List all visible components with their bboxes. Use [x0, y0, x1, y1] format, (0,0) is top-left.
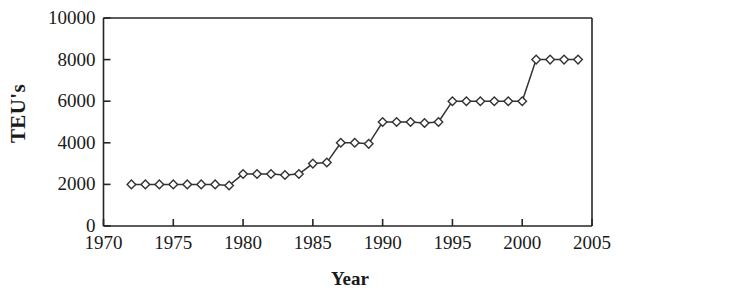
data-point-marker: [141, 180, 150, 189]
data-point-marker: [546, 55, 555, 64]
data-series-markers: [127, 55, 582, 189]
data-point-marker: [155, 180, 164, 189]
data-point-marker: [350, 139, 359, 148]
data-point-marker: [518, 97, 527, 106]
data-point-marker: [406, 118, 415, 127]
plot-area: [0, 0, 729, 303]
x-axis-title: Year: [0, 268, 700, 290]
data-point-marker: [574, 55, 583, 64]
data-point-marker: [462, 97, 471, 106]
data-point-marker: [448, 97, 457, 106]
data-point-marker: [532, 55, 541, 64]
x-axis-title-text: Year: [331, 268, 369, 289]
data-point-marker: [504, 97, 513, 106]
data-point-marker: [267, 170, 276, 179]
data-point-marker: [127, 180, 136, 189]
data-point-marker: [476, 97, 485, 106]
data-point-marker: [420, 119, 429, 128]
series-polyline: [131, 60, 578, 186]
data-point-marker: [253, 170, 262, 179]
data-point-marker: [560, 55, 569, 64]
data-point-marker: [378, 118, 387, 127]
data-series-line: [131, 60, 578, 186]
data-point-marker: [211, 180, 220, 189]
data-point-marker: [490, 97, 499, 106]
chart-figure: TEU's 1000080006000400020000 19701975198…: [0, 0, 729, 303]
data-point-marker: [197, 180, 206, 189]
data-point-marker: [434, 118, 443, 127]
axes-lines: [104, 18, 593, 226]
data-point-marker: [281, 171, 290, 180]
tick-marks: [104, 18, 593, 226]
data-point-marker: [392, 118, 401, 127]
data-point-marker: [183, 180, 192, 189]
data-point-marker: [169, 180, 178, 189]
data-point-marker: [364, 140, 373, 149]
